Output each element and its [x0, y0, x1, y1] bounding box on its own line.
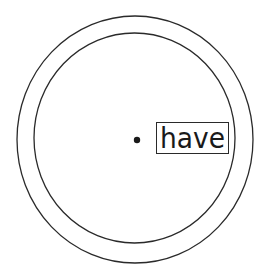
diagram-canvas: have — [0, 0, 266, 276]
center-dot — [134, 137, 140, 143]
label-text: have — [160, 121, 225, 155]
